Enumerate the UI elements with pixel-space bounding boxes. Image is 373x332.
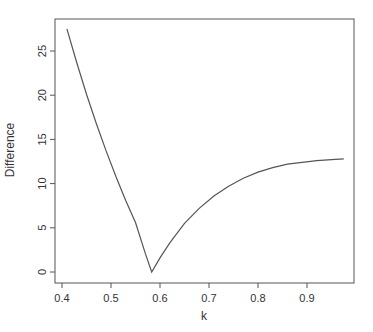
x-tick-label: 0.8 bbox=[250, 292, 265, 304]
y-axis: 0510152025 bbox=[36, 45, 55, 275]
x-axis: 0.40.50.60.70.80.9 bbox=[54, 283, 314, 304]
y-tick-label: 15 bbox=[36, 133, 48, 145]
x-tick-label: 0.9 bbox=[299, 292, 314, 304]
y-tick-label: 5 bbox=[36, 225, 48, 231]
x-axis-label: k bbox=[201, 309, 208, 323]
y-axis-label: Difference bbox=[3, 122, 17, 177]
difference-line bbox=[67, 29, 344, 272]
x-tick-label: 0.5 bbox=[103, 292, 118, 304]
y-tick-label: 25 bbox=[36, 45, 48, 57]
plot-frame bbox=[55, 19, 354, 283]
x-tick-label: 0.7 bbox=[201, 292, 216, 304]
x-tick-label: 0.4 bbox=[54, 292, 69, 304]
y-tick-label: 0 bbox=[36, 269, 48, 275]
y-tick-label: 10 bbox=[36, 177, 48, 189]
line-chart: 0.40.50.60.70.80.9 0510152025 k Differen… bbox=[0, 0, 373, 332]
x-tick-label: 0.6 bbox=[152, 292, 167, 304]
y-tick-label: 20 bbox=[36, 89, 48, 101]
